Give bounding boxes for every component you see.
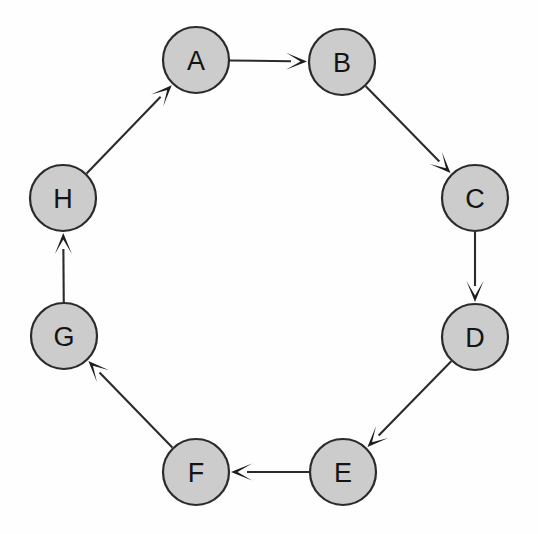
graph-edge-f-g: F to G	[88, 361, 172, 447]
graph-node-f[interactable]: F	[163, 439, 229, 505]
node-layer: ABCDEFGH	[30, 27, 508, 505]
edge-line	[366, 86, 440, 161]
graph-edge-a-b: A to B	[230, 53, 307, 70]
graph-node-b[interactable]: B	[309, 29, 375, 95]
graph-node-d[interactable]: D	[442, 304, 508, 370]
node-label: B	[333, 48, 351, 78]
graph-node-c[interactable]: C	[442, 165, 508, 231]
edge-line	[100, 373, 173, 448]
graph-edge-d-e: D to E	[367, 361, 451, 447]
edge-layer: A to BB to CC to DD to EE to FF to GG to…	[55, 53, 484, 481]
graph-edge-c-d: C to D	[467, 232, 484, 302]
node-label: C	[465, 184, 485, 214]
graph-node-h[interactable]: H	[30, 165, 96, 231]
node-label: H	[53, 184, 73, 214]
graph-svg: A to BB to CC to DD to EE to FF to GG to…	[0, 0, 538, 534]
node-label: D	[465, 323, 485, 353]
node-label: A	[187, 46, 205, 76]
graph-edge-e-f: E to F	[231, 464, 309, 481]
graph-node-g[interactable]: G	[31, 303, 97, 369]
node-label: E	[334, 458, 352, 488]
node-label: G	[53, 322, 74, 352]
graph-edge-g-h: G to H	[55, 233, 72, 302]
node-label: F	[188, 458, 205, 488]
edge-line	[87, 97, 161, 174]
diagram-canvas: A to BB to CC to DD to EE to FF to GG to…	[0, 0, 538, 534]
graph-edge-b-c: B to C	[366, 86, 451, 173]
graph-node-a[interactable]: A	[163, 27, 229, 93]
edge-line	[230, 60, 291, 61]
graph-node-e[interactable]: E	[310, 439, 376, 505]
graph-edge-h-a: H to A	[87, 85, 172, 173]
edge-line	[379, 361, 452, 435]
